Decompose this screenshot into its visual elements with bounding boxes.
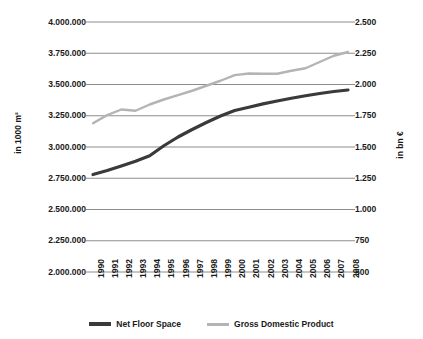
x-axis-tick-label: 1993 — [139, 259, 148, 278]
x-axis-tick-label: 1990 — [97, 259, 106, 278]
legend-label: Net Floor Space — [116, 320, 181, 329]
legend-line-swatch — [207, 323, 229, 326]
x-axis-ticks: 1990199119921993199419951996199719981999… — [0, 0, 423, 339]
legend-item: Net Floor Space — [89, 320, 181, 329]
legend-item: Gross Domestic Product — [207, 320, 334, 329]
x-axis-tick-label: 1999 — [224, 259, 233, 278]
x-axis-tick-label: 1995 — [167, 259, 176, 278]
x-axis-tick-label: 1992 — [125, 259, 134, 278]
x-axis-tick-label: 2007 — [337, 259, 346, 278]
x-axis-tick-label: 2001 — [252, 259, 261, 278]
x-axis-tick-label: 2003 — [281, 259, 290, 278]
x-axis-tick-label: 2008 — [352, 259, 361, 278]
x-axis-tick-label: 1997 — [196, 259, 205, 278]
line-chart: in 1000 m² in bn € 2.000.0002.250.0002.5… — [0, 0, 423, 339]
x-axis-tick-label: 2002 — [267, 259, 276, 278]
x-axis-tick-label: 1996 — [182, 259, 191, 278]
x-axis-tick-label: 2005 — [309, 259, 318, 278]
x-axis-tick-label: 1998 — [210, 259, 219, 278]
legend-label: Gross Domestic Product — [234, 320, 334, 329]
x-axis-tick-label: 2006 — [323, 259, 332, 278]
chart-legend: Net Floor SpaceGross Domestic Product — [0, 316, 423, 332]
x-axis-tick-label: 1994 — [153, 259, 162, 278]
legend-line-swatch — [89, 322, 111, 326]
x-axis-tick-label: 1991 — [111, 259, 120, 278]
x-axis-tick-label: 2000 — [238, 259, 247, 278]
x-axis-tick-label: 2004 — [295, 259, 304, 278]
